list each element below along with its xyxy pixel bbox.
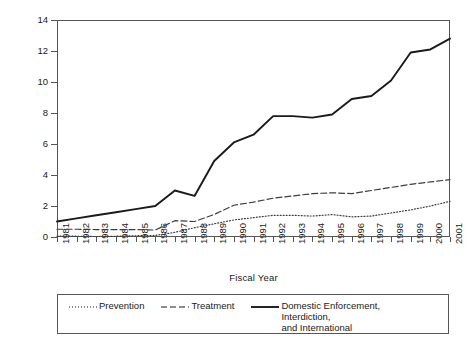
chart-legend: PreventionTreatmentDomestic Enforcement,…	[57, 294, 449, 334]
x-tick-mark	[273, 237, 274, 242]
legend-swatch-dashed-icon	[160, 301, 190, 313]
y-tick-label: 2	[26, 201, 48, 211]
legend-swatch-dotted-icon	[68, 301, 98, 313]
y-tick-label: 0	[26, 232, 48, 242]
legend-item[interactable]: Treatment	[160, 300, 234, 313]
plot-area	[57, 20, 450, 237]
x-tick-mark	[57, 237, 58, 242]
x-tick-mark	[371, 237, 372, 242]
y-tick-label: 6	[26, 139, 48, 149]
x-tick-mark	[391, 237, 392, 242]
x-tick-mark	[116, 237, 117, 242]
y-tick-label: 14	[26, 15, 48, 25]
y-tick-label: 8	[26, 108, 48, 118]
x-tick-mark	[175, 237, 176, 242]
x-tick-mark	[254, 237, 255, 242]
x-axis-title: Fiscal Year	[57, 272, 450, 283]
y-tick-label: 10	[26, 77, 48, 87]
x-tick-mark	[234, 237, 235, 242]
x-tick-mark	[411, 237, 412, 242]
x-tick-mark	[312, 237, 313, 242]
x-tick-mark	[450, 237, 451, 242]
legend-label: Domestic Enforcement, Interdiction, and …	[281, 300, 428, 333]
x-tick-mark	[77, 237, 78, 242]
x-tick-mark	[332, 237, 333, 242]
legend-label: Prevention	[99, 300, 144, 311]
x-tick-mark	[96, 237, 97, 242]
x-tick-mark	[214, 237, 215, 242]
legend-label: Treatment	[191, 300, 234, 311]
series-line	[57, 201, 450, 236]
chart-figure: Budget Amount (in billions) 02468101214 …	[0, 0, 471, 347]
y-tick-label: 12	[26, 46, 48, 56]
x-tick-label: 2001	[454, 223, 464, 244]
x-tick-mark	[155, 237, 156, 242]
x-tick-mark	[195, 237, 196, 242]
series-line	[57, 39, 450, 222]
series-line	[57, 180, 450, 230]
x-tick-mark	[293, 237, 294, 242]
series-lines	[57, 20, 450, 237]
x-tick-mark	[136, 237, 137, 242]
legend-item[interactable]: Domestic Enforcement, Interdiction, and …	[250, 300, 428, 333]
legend-swatch-solid-icon	[250, 301, 280, 313]
y-tick-label: 4	[26, 170, 48, 180]
legend-item[interactable]: Prevention	[68, 300, 144, 313]
x-tick-mark	[430, 237, 431, 242]
x-tick-mark	[352, 237, 353, 242]
